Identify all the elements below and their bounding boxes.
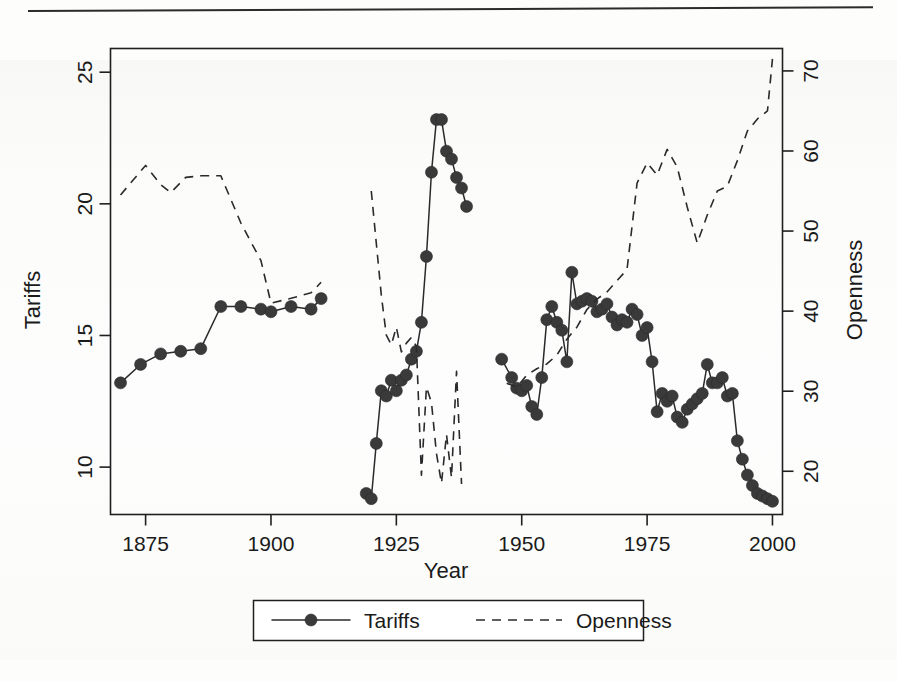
data-point (390, 385, 402, 397)
y-tick-label-left: 20 (73, 192, 96, 215)
series-path-pre-war (121, 165, 322, 303)
x-axis-tick-labels: 187519001925195019752000 (122, 532, 796, 555)
y-tick-label-right: 70 (799, 59, 822, 82)
data-point (135, 358, 147, 370)
data-point (666, 390, 678, 402)
data-point (741, 469, 753, 481)
y-axis-title-left: Tariffs (20, 271, 45, 329)
data-point (425, 166, 437, 178)
data-point (446, 153, 458, 165)
series-path-interwar (371, 191, 461, 484)
data-point (400, 369, 412, 381)
page-canvas: 187519001925195019752000 10152025 203040… (0, 0, 897, 681)
data-point (456, 182, 468, 194)
data-point (646, 356, 658, 368)
data-point (726, 387, 738, 399)
data-point (561, 356, 573, 368)
chart-legend: Tariffs Openness (254, 601, 672, 641)
data-series-layer (115, 59, 779, 507)
data-point (586, 295, 598, 307)
data-point (435, 114, 447, 126)
data-point (496, 353, 508, 365)
y-tick-label-right: 60 (799, 139, 822, 162)
data-point (415, 316, 427, 328)
x-tick-label: 1925 (373, 532, 420, 555)
data-point (631, 308, 643, 320)
data-point (531, 408, 543, 420)
x-tick-label: 1875 (122, 532, 169, 555)
data-point (621, 316, 633, 328)
x-tick-label: 2000 (749, 532, 796, 555)
x-axis-ticks (146, 515, 773, 526)
y-axis-tick-labels-left: 10152025 (73, 61, 96, 479)
y-axis-ticks-right (783, 71, 794, 471)
y-tick-label-right: 30 (799, 380, 822, 403)
y-tick-label-left: 10 (73, 455, 96, 478)
x-tick-label: 1900 (248, 532, 295, 555)
data-point (766, 495, 778, 507)
data-point (716, 372, 728, 384)
data-point (651, 406, 663, 418)
data-point (601, 298, 613, 310)
data-point (546, 301, 558, 313)
data-point (315, 293, 327, 305)
x-axis-title: Year (424, 558, 468, 583)
data-point (235, 301, 247, 313)
data-point (461, 200, 473, 212)
legend-label-openness: Openness (576, 609, 672, 632)
y-tick-label-left: 25 (73, 61, 96, 84)
data-point (370, 437, 382, 449)
data-point (641, 322, 653, 334)
data-point (115, 377, 127, 389)
y-tick-label-right: 40 (799, 299, 822, 322)
x-tick-label: 1975 (624, 532, 671, 555)
y-tick-label-right: 20 (799, 460, 822, 483)
y-tick-label-left: 15 (73, 324, 96, 347)
data-point (736, 453, 748, 465)
data-point (155, 348, 167, 360)
data-point (696, 387, 708, 399)
data-point (265, 306, 277, 318)
data-point (305, 303, 317, 315)
y-axis-ticks-left (100, 72, 111, 467)
data-point (566, 266, 578, 278)
legend-swatch-tariffs-marker (305, 614, 317, 626)
data-point (506, 372, 518, 384)
data-point (420, 250, 432, 262)
data-point (701, 358, 713, 370)
data-point (365, 493, 377, 505)
data-point (556, 324, 568, 336)
data-point (451, 172, 463, 184)
y-axis-title-right: Openness (842, 240, 867, 340)
data-point (731, 435, 743, 447)
data-point (676, 416, 688, 428)
data-point (285, 301, 297, 313)
x-tick-label: 1950 (498, 532, 545, 555)
chart-figure: 187519001925195019752000 10152025 203040… (0, 0, 897, 681)
y-tick-label-right: 50 (799, 219, 822, 242)
tariffs-openness-line-chart: 187519001925195019752000 10152025 203040… (0, 0, 897, 681)
data-point (536, 372, 548, 384)
legend-label-tariffs: Tariffs (364, 609, 420, 632)
y-axis-tick-labels-right: 203040506070 (799, 59, 822, 483)
data-point (215, 301, 227, 313)
data-point (195, 343, 207, 355)
data-point (175, 345, 187, 357)
